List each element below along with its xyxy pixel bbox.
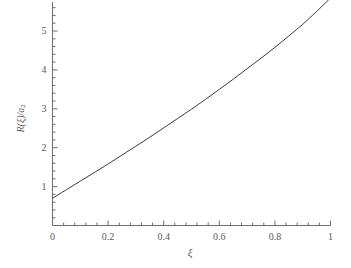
x-tick-label: 0.2: [98, 232, 118, 242]
x-tick-label: 0: [43, 232, 63, 242]
y-axis-title: R(ξ)/a2: [15, 88, 28, 148]
x-axis-title: ξ: [178, 246, 202, 258]
y-axis-title-text: R(ξ)/a: [15, 108, 26, 133]
y-ticks-group: [53, 8, 58, 218]
y-axis-title-subscript: 2: [19, 104, 27, 108]
data-series-group: [53, 0, 331, 198]
x-tick-label: 0.8: [265, 232, 285, 242]
chart-plot-area: [0, 0, 351, 268]
x-tick-label: 0.6: [209, 232, 229, 242]
x-tick-label: 1: [321, 232, 341, 242]
x-ticks-group: [53, 221, 331, 226]
chart-figure: 12345 00.20.40.60.81 ξ R(ξ)/a2: [0, 0, 351, 268]
data-line-series-0: [53, 0, 331, 198]
y-tick-label: 4: [33, 65, 47, 75]
x-tick-label: 0.4: [154, 232, 174, 242]
y-tick-label: 2: [33, 143, 47, 153]
y-tick-label: 3: [33, 104, 47, 114]
y-tick-label: 5: [33, 26, 47, 36]
y-tick-label: 1: [33, 182, 47, 192]
